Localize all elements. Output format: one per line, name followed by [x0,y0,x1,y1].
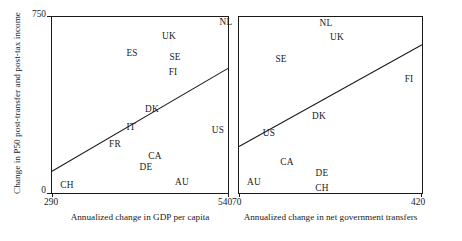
x-tick-label-left-max: 540 [218,197,232,207]
y-tick-label-0: 0 [16,185,46,195]
x-axis-title-right: Annualized change in net government tran… [238,212,423,222]
panel-net-government-transfers: NL UK SE FI DK US CA DE AU CH [238,16,423,194]
regression-line-right [239,17,422,193]
data-label-ca: CA [148,151,161,161]
data-label-de: DE [140,162,153,172]
x-tick-label-right-max: 420 [411,197,425,207]
data-label-uk: UK [162,31,176,41]
data-label-ch: CH [60,180,73,190]
data-label-fr: FR [109,139,121,149]
data-label-dk: DK [145,104,159,114]
data-label-it: IT [126,122,135,132]
data-label-ch: CH [315,183,328,193]
data-label-se: SE [169,52,180,62]
data-label-dk: DK [312,111,326,121]
data-label-nl: NL [220,17,233,27]
x-tick-label-left-min: 290 [44,197,58,207]
panel-gdp-per-capita: NL UK ES SE FI DK IT FR CA DE US AU CH [51,16,229,194]
data-label-fi: FI [405,74,414,84]
data-label-nl: NL [320,18,333,28]
data-label-au: AU [175,177,189,187]
data-label-fi: FI [169,67,178,77]
data-label-de: DE [316,168,329,178]
y-tick-label-750: 750 [16,9,46,19]
data-label-au: AU [247,177,261,187]
data-label-se: SE [275,54,286,64]
data-label-uk: UK [330,32,344,42]
figure-panel-chart: Change in P50 post-transfer and post-tax… [0,0,462,241]
data-label-us: US [263,128,275,138]
x-axis-title-left: Annualized change in GDP per capita [51,212,229,222]
data-label-us: US [212,125,224,135]
data-label-ca: CA [280,157,293,167]
data-label-es: ES [126,48,137,58]
x-tick-label-right-min: 70 [232,197,241,207]
y-axis-title: Change in P50 post-transfer and post-tax… [12,3,22,203]
